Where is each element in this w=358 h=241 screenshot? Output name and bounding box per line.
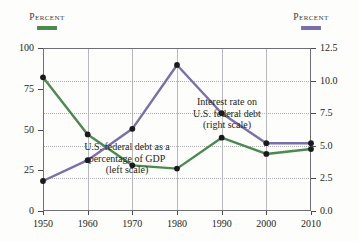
right-axis-tick-label: 5.0: [320, 141, 333, 151]
annotation-interest-line2: U.S. federal debt: [168, 108, 286, 120]
x-axis-tick-mark: [311, 211, 312, 215]
right-axis-tick-label: 0.0: [320, 206, 333, 216]
left-axis-tick-mark: [38, 130, 43, 131]
x-axis-tick-label: 1970: [108, 219, 156, 229]
left-axis-tick-mark: [38, 170, 43, 171]
left-axis-tick-mark: [38, 89, 43, 90]
left-axis-tick-mark: [38, 48, 43, 49]
data-point: [263, 151, 269, 157]
left-series-color-swatch: [37, 26, 57, 30]
x-axis-tick-label: 2000: [242, 219, 290, 229]
left-axis-tick-label: 0: [0, 206, 34, 216]
x-axis-tick-mark: [43, 211, 44, 215]
annotation-interest-rate: Interest rate on U.S. federal debt (righ…: [168, 96, 286, 131]
right-axis-tick-mark: [311, 81, 316, 82]
right-axis-tick-mark: [311, 146, 316, 147]
annotation-interest-line3: (right scale): [168, 119, 286, 131]
left-axis-tick-label: 100: [0, 43, 34, 53]
x-axis-tick-label: 1980: [153, 219, 201, 229]
right-axis-tick-mark: [311, 48, 316, 49]
x-axis-tick-label: 1990: [198, 219, 246, 229]
annotation-debt-line2: percentage of GDP: [62, 153, 192, 165]
x-axis-tick-mark: [88, 211, 89, 215]
data-point: [40, 74, 46, 80]
x-axis-tick-mark: [177, 211, 178, 215]
x-axis-tick-mark: [222, 211, 223, 215]
left-axis-header-label: Percent: [2, 12, 92, 23]
left-axis-tick-label: 75: [0, 84, 34, 94]
right-series-color-swatch: [301, 26, 321, 30]
annotation-federal-debt: U.S. federal debt as a percentage of GDP…: [62, 141, 192, 176]
annotation-debt-line3: (left scale): [62, 164, 192, 176]
left-axis-tick-label: 25: [0, 165, 34, 175]
right-axis-tick-label: 10.0: [320, 76, 338, 86]
right-axis-tick-mark: [311, 178, 316, 179]
data-point: [308, 146, 314, 152]
right-axis-header-label: Percent: [266, 12, 356, 23]
data-point: [40, 178, 46, 184]
data-point: [263, 140, 269, 146]
x-axis-tick-mark: [266, 211, 267, 215]
right-axis-tick-label: 12.5: [320, 43, 338, 53]
data-point: [129, 126, 135, 132]
x-axis-tick-label: 1960: [64, 219, 112, 229]
data-point: [174, 62, 180, 68]
right-axis-tick-mark: [311, 113, 316, 114]
left-axis-header: Percent: [2, 12, 92, 30]
x-axis-tick-label: 2010: [287, 219, 335, 229]
chart-figure: Percent Percent 1007550250 12.510.07.55.…: [0, 0, 358, 241]
data-point: [85, 131, 91, 137]
right-axis-header: Percent: [266, 12, 356, 30]
x-axis-tick-mark: [132, 211, 133, 215]
annotation-debt-line1: U.S. federal debt as a: [62, 141, 192, 153]
annotation-interest-line1: Interest rate on: [168, 96, 286, 108]
data-point: [219, 135, 225, 141]
left-axis-tick-label: 50: [0, 125, 34, 135]
right-axis-tick-label: 7.5: [320, 108, 333, 118]
x-axis-tick-label: 1950: [19, 219, 67, 229]
right-axis-tick-label: 2.5: [320, 173, 333, 183]
